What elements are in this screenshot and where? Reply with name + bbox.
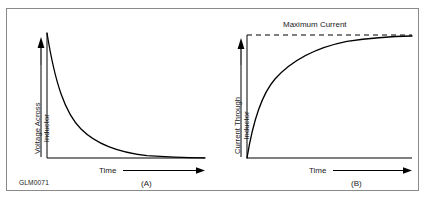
decay-curve-plot (7, 9, 213, 192)
panel-a-y-axis-label: Voltage Across Inductor (33, 102, 51, 154)
panel-a-caption: (A) (141, 179, 152, 188)
panel-b-caption: (B) (351, 179, 362, 188)
figure-id-label: GLM0071 (19, 179, 49, 186)
panel-a-x-axis-label: Time (99, 166, 116, 175)
chart-panel-a: Voltage Across Inductor Time (A) (7, 9, 213, 192)
rise-curve (247, 36, 412, 158)
panel-b-x-axis-label: Time (309, 166, 326, 175)
figure-frame: Voltage Across Inductor Time (A) (6, 8, 419, 191)
chart-panel-b: Maximum Current Current Through Inductor… (213, 9, 420, 192)
decay-curve (47, 33, 205, 158)
panel-b-y-axis-label: Current Through Inductor (233, 97, 251, 154)
panel-a-y-axis-label-line1: Voltage Across (33, 102, 42, 154)
maximum-current-label: Maximum Current (283, 20, 347, 29)
panel-b-y-axis-label-line1: Current Through (233, 97, 242, 154)
panel-a-y-axis-label-line2: Inductor (42, 102, 51, 154)
time-arrow-icon (333, 167, 412, 174)
panel-b-y-axis-label-line2: Inductor (242, 97, 251, 154)
time-arrow-icon (123, 167, 205, 174)
